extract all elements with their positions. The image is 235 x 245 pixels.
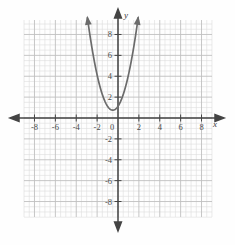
x-tick-label--4: -4	[73, 122, 81, 132]
y-tick-label-8: 8	[108, 29, 112, 39]
y-axis-down-arrow	[115, 222, 122, 231]
x-axis-left-arrow	[10, 115, 19, 122]
x-tick-label-2: 2	[137, 122, 141, 132]
x-axis-label: x	[212, 119, 217, 129]
y-axis-label: y	[123, 10, 128, 20]
y-tick-label--8: -8	[105, 197, 112, 207]
y-tick-label--4: -4	[105, 155, 113, 165]
y-axis-up-arrow	[115, 9, 122, 18]
y-tick-label--2: -2	[105, 134, 112, 144]
y-tick-label-6: 6	[108, 50, 112, 60]
x-tick-label-8: 8	[199, 122, 203, 132]
y-tick-label-2: 2	[108, 92, 112, 102]
x-tick-label-0: 0	[110, 122, 114, 132]
x-tick-label-6: 6	[179, 122, 183, 132]
x-tick-label--6: -6	[52, 122, 59, 132]
y-tick-label--6: -6	[105, 176, 112, 186]
x-tick-label--2: -2	[94, 122, 101, 132]
graph-figure: -8-6-4-202468-8-6-4-22468 x y	[0, 0, 235, 245]
x-tick-label--8: -8	[31, 122, 38, 132]
cartesian-plane: -8-6-4-202468-8-6-4-22468 x y	[0, 0, 235, 245]
x-tick-label-4: 4	[158, 122, 163, 132]
